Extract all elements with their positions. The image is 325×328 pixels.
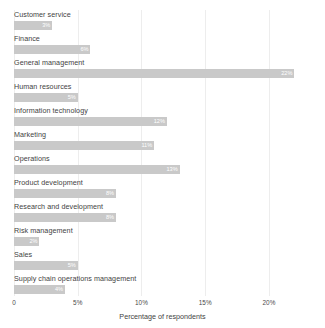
bar-category-label: Information technology — [14, 106, 88, 116]
bar-fill — [14, 141, 154, 150]
x-axis-tick-label: 15% — [199, 298, 212, 307]
bar-fill — [14, 45, 90, 54]
x-axis: 05%10%15%20% — [14, 298, 311, 310]
bar-category-label: Sales — [14, 250, 32, 260]
bar[interactable]: 13% — [14, 165, 180, 174]
x-axis-tick-label: 10% — [135, 298, 148, 307]
bar[interactable]: 11% — [14, 141, 154, 150]
bar-value-label: 5% — [68, 93, 76, 102]
bar-value-label: 3% — [42, 21, 50, 30]
bar-category-label: Risk management — [14, 226, 73, 236]
plot-area: Customer service3%Finance6%General manag… — [14, 10, 311, 296]
bar-value-label: 13% — [167, 165, 178, 174]
bar-row: Research and development8% — [14, 202, 311, 226]
bar[interactable]: 2% — [14, 237, 39, 246]
bar-value-label: 11% — [141, 141, 152, 150]
bar-row: Information technology12% — [14, 106, 311, 130]
bar-category-label: Finance — [14, 34, 40, 44]
bar-fill — [14, 213, 116, 222]
bar-category-label: General management — [14, 58, 84, 68]
bar-fill — [14, 117, 167, 126]
bar[interactable]: 22% — [14, 69, 294, 78]
bar-category-label: Product development — [14, 178, 83, 188]
bar-row: Sales5% — [14, 250, 311, 274]
bar[interactable]: 5% — [14, 93, 78, 102]
x-axis-tick-label: 20% — [263, 298, 276, 307]
bar-row: General management22% — [14, 58, 311, 82]
bar[interactable]: 6% — [14, 45, 90, 54]
bar-row: Operations13% — [14, 154, 311, 178]
x-axis-title: Percentage of respondents — [0, 312, 325, 322]
bar-value-label: 8% — [106, 213, 114, 222]
x-axis-tick-label: 0 — [12, 298, 16, 307]
bar-row: Human resources5% — [14, 82, 311, 106]
bar-value-label: 22% — [281, 69, 292, 78]
bar-fill — [14, 69, 294, 78]
bar-value-label: 6% — [80, 45, 88, 54]
bar-category-label: Customer service — [14, 10, 71, 20]
bar-row: Marketing11% — [14, 130, 311, 154]
bar-category-label: Research and development — [14, 202, 103, 212]
x-axis-tick-label: 5% — [73, 298, 82, 307]
bar-category-label: Human resources — [14, 82, 71, 92]
bar-category-label: Marketing — [14, 130, 46, 140]
bar-value-label: 2% — [29, 237, 37, 246]
bar-fill — [14, 165, 180, 174]
bar[interactable]: 5% — [14, 261, 78, 270]
bar[interactable]: 3% — [14, 21, 52, 30]
bar-value-label: 4% — [55, 285, 63, 294]
bar[interactable]: 8% — [14, 189, 116, 198]
bar-row: Risk management2% — [14, 226, 311, 250]
bar-chart: Customer service3%Finance6%General manag… — [0, 0, 325, 328]
bar[interactable]: 4% — [14, 285, 65, 294]
bar-value-label: 12% — [154, 117, 165, 126]
bar-category-label: Operations — [14, 154, 50, 164]
bar-row: Product development8% — [14, 178, 311, 202]
bar-row: Finance6% — [14, 34, 311, 58]
bar-series: Customer service3%Finance6%General manag… — [14, 10, 311, 296]
bar[interactable]: 8% — [14, 213, 116, 222]
bar[interactable]: 12% — [14, 117, 167, 126]
bar-value-label: 5% — [68, 261, 76, 270]
bar-category-label: Supply chain operations management — [14, 274, 136, 284]
bar-row: Supply chain operations management4% — [14, 274, 311, 298]
bar-fill — [14, 189, 116, 198]
bar-value-label: 8% — [106, 189, 114, 198]
bar-row: Customer service3% — [14, 10, 311, 34]
